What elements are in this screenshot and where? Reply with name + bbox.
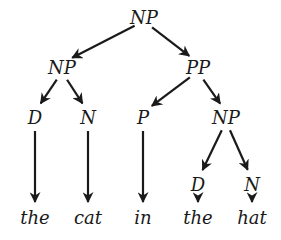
tree-edge: [203, 130, 222, 170]
leaf-word: in: [134, 207, 151, 228]
tree-node-label: N: [243, 174, 261, 195]
tree-edge: [152, 77, 190, 106]
tree-node-label: N: [79, 107, 97, 128]
tree-node-label: NP: [211, 107, 241, 128]
tree-edge: [72, 26, 134, 58]
syntax-tree: NPNPPPDNPNPDNthecatinthehat: [0, 0, 281, 240]
tree-edge: [67, 80, 82, 104]
tree-edge: [230, 130, 248, 170]
tree-edge: [41, 80, 57, 104]
tree-node-label: NP: [47, 57, 77, 78]
leaf-word: hat: [237, 207, 267, 228]
tree-node-label: P: [136, 107, 150, 128]
tree-edge: [203, 80, 220, 104]
leaf-word: cat: [74, 207, 103, 228]
leaf-word: the: [20, 207, 49, 228]
tree-edge: [152, 27, 189, 55]
tree-node-label: PP: [185, 57, 211, 78]
leaf-word: the: [183, 207, 212, 228]
tree-node-label: NP: [129, 7, 159, 28]
tree-node-label: D: [190, 174, 206, 195]
tree-node-label: D: [27, 107, 43, 128]
